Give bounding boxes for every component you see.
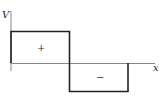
positive-region-label: + (37, 42, 45, 53)
negative-region-label: − (96, 72, 104, 83)
x-axis-label: x (153, 62, 159, 73)
y-axis-label: V (2, 9, 11, 20)
waveform (11, 32, 128, 92)
square-wave-diagram: V x + − (0, 0, 159, 98)
